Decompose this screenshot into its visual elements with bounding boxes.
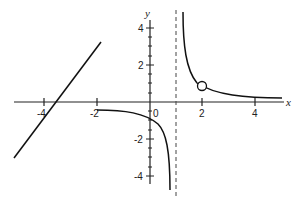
y-tick-label: 4: [138, 23, 144, 34]
y-axis-label: y: [144, 7, 150, 19]
y-tick-label: -2: [134, 134, 143, 145]
y-tick-label: 2: [138, 60, 144, 71]
y-tick-label: -4: [134, 171, 143, 182]
left-line-series: [14, 42, 101, 158]
function-graph: y x -4 -2 0 2 4 4 2 -2 -4: [0, 0, 304, 212]
x-tick-label: 4: [252, 108, 258, 119]
origin-label: 0: [153, 108, 159, 119]
x-axis-label: x: [285, 96, 291, 108]
open-circle-point: [198, 82, 207, 91]
x-tick-label: 2: [199, 108, 205, 119]
